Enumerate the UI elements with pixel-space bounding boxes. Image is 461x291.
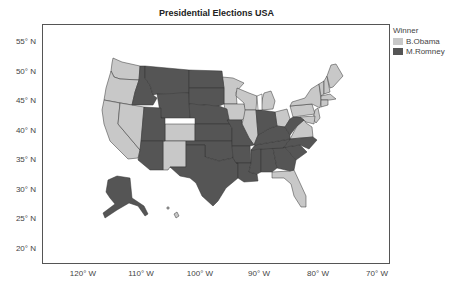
state-new-mexico [163, 141, 186, 170]
romney-swatch [393, 48, 403, 55]
x-tick-110w: 110° W [121, 269, 161, 278]
legend-label-romney: M.Romney [406, 47, 445, 56]
legend-item-obama: B.Obama [393, 36, 445, 46]
y-tick-20: 20° N [0, 244, 36, 253]
state-arkansas [232, 146, 251, 163]
y-tick-30: 30° N [0, 185, 36, 194]
x-tick-80w: 80° W [298, 269, 338, 278]
state-new-york [290, 84, 321, 108]
state-kansas [195, 124, 232, 141]
state-pennsylvania [290, 104, 315, 117]
state-north-dakota [189, 70, 224, 88]
state-washington [111, 58, 140, 80]
y-tick-50: 50° N [0, 67, 36, 76]
state-nebraska [189, 104, 230, 124]
state-florida [272, 170, 306, 207]
state-montana [145, 66, 189, 95]
state-michigan [261, 91, 275, 110]
lake-michigan [257, 94, 262, 110]
state-connecticut [321, 100, 328, 107]
y-tick-35: 35° N [0, 155, 36, 164]
x-tick-120w: 120° W [63, 269, 103, 278]
state-colorado [165, 124, 195, 141]
x-tick-90w: 90° W [239, 269, 279, 278]
state-maine [327, 64, 343, 88]
y-tick-40: 40° N [0, 126, 36, 135]
state-hawaii-islands [167, 207, 169, 209]
legend-item-romney: M.Romney [393, 46, 445, 56]
x-tick-100w: 100° W [180, 269, 220, 278]
state-south-dakota [189, 88, 224, 106]
x-tick-70w: 70° W [357, 269, 397, 278]
us-map [0, 0, 461, 291]
obama-swatch [393, 38, 403, 45]
state-alaska [103, 176, 148, 218]
legend: Winner B.Obama M.Romney [393, 26, 445, 56]
y-tick-45: 45° N [0, 96, 36, 105]
state-hawaii [174, 212, 179, 218]
legend-label-obama: B.Obama [406, 37, 440, 46]
state-mississippi [249, 149, 261, 174]
state-wyoming [157, 93, 190, 118]
state-arizona [138, 141, 163, 170]
legend-title: Winner [393, 26, 445, 35]
state-massachusetts [321, 94, 336, 100]
y-tick-25: 25° N [0, 214, 36, 223]
y-tick-55: 55° N [0, 37, 36, 46]
